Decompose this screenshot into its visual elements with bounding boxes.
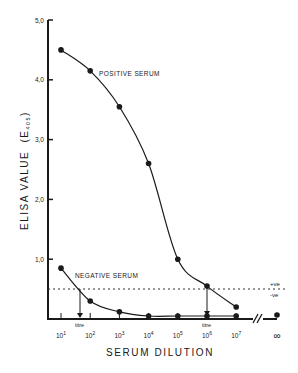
- cutoff-negative-label: -ve: [270, 292, 279, 298]
- data-point: [58, 47, 64, 53]
- data-point: [233, 304, 239, 310]
- negative-serum-label: NEGATIVE SERUM: [75, 272, 138, 279]
- data-point: [175, 313, 181, 319]
- data-point: [175, 256, 181, 262]
- x-tick-label: 101: [56, 330, 66, 339]
- data-point: [117, 104, 123, 110]
- positive-serum-label: POSITIVE SERUM: [99, 70, 160, 77]
- svg-text:ELISA VALUE (E405): ELISA VALUE (E405): [19, 111, 31, 230]
- y-tick-label: 1,0: [35, 256, 44, 263]
- x-tick-label: 106: [202, 330, 212, 339]
- data-point: [146, 161, 152, 167]
- data-point: [58, 265, 64, 271]
- y-axis-unit: E: [19, 130, 30, 138]
- axis-break-icon: [253, 314, 262, 323]
- titre-negative-label: titre: [75, 322, 84, 328]
- x-tick-label: 107: [231, 330, 241, 339]
- y-axis-unit-sub: 405: [25, 116, 31, 130]
- y-tick-label: 4,0: [35, 76, 44, 83]
- x-tick-label: 105: [173, 330, 183, 339]
- data-point: [117, 309, 123, 315]
- y-axis-title-main: ELISA VALUE: [19, 151, 30, 230]
- data-point: [233, 313, 239, 319]
- elisa-chart: 5,04,03,02,01,0 101102103104105106107∞ +…: [0, 0, 298, 373]
- x-tick-label: 103: [114, 330, 124, 339]
- data-point: [87, 68, 93, 74]
- x-tick-label-infinity: ∞: [273, 330, 280, 341]
- positive-serum-curve: [61, 50, 236, 307]
- data-point: [146, 313, 152, 319]
- titre-positive-arrow: [204, 287, 210, 316]
- y-tick-label: 5,0: [35, 17, 44, 24]
- x-tick-label: 104: [144, 330, 154, 339]
- infinity-point: [274, 312, 280, 318]
- data-point: [87, 298, 93, 304]
- y-tick-label: 3,0: [35, 136, 44, 143]
- y-ticks: 5,04,03,02,01,0: [35, 17, 53, 263]
- titre-positive-label: titre: [202, 322, 211, 328]
- y-axis-title: ELISA VALUE (E405): [19, 111, 31, 230]
- x-ticks: 101102103104105106107∞: [56, 313, 281, 341]
- x-axis-title: SERUM DILUTION: [106, 347, 214, 358]
- cutoff-positive-label: +ve: [270, 281, 281, 287]
- x-tick-label: 102: [85, 330, 95, 339]
- positive-serum-points: [58, 47, 239, 310]
- y-tick-label: 2,0: [35, 196, 44, 203]
